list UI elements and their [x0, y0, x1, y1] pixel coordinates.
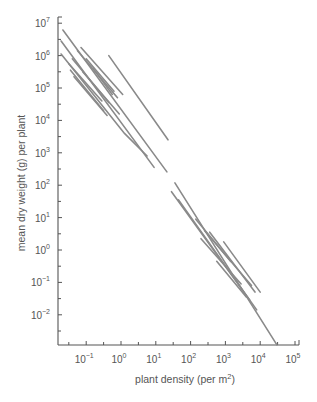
series-line-lower-3 — [178, 200, 256, 310]
y-tick-label: 103 — [35, 146, 50, 159]
y-tick-label: 106 — [35, 49, 50, 62]
series-line-upper-8 — [69, 64, 102, 101]
x-tick-label: 100 — [111, 352, 126, 365]
series-line-upper-12 — [86, 59, 114, 91]
x-tick-label: 105 — [285, 352, 300, 365]
data-lines — [61, 30, 277, 345]
series-line-lower-9 — [196, 219, 231, 261]
y-tick-label: 100 — [35, 243, 50, 256]
self-thinning-chart: 10710610510410310210110010−110−210−11001… — [0, 0, 317, 402]
x-axis-title: plant density (per m2) — [135, 372, 235, 385]
series-line-lower-1 — [175, 183, 277, 345]
x-tick-label: 101 — [146, 352, 161, 365]
y-tick-label: 105 — [35, 81, 50, 94]
y-tick-label: 107 — [35, 16, 50, 29]
x-tick-label: 103 — [216, 352, 231, 365]
y-tick-label: 10−1 — [31, 275, 50, 288]
axes — [58, 17, 299, 345]
series-line-lower-5 — [224, 242, 261, 292]
series-line-lower-7 — [201, 239, 241, 284]
x-tick-label: 10−1 — [75, 352, 94, 365]
x-tick-label: 102 — [181, 352, 196, 365]
y-tick-label: 104 — [35, 113, 50, 126]
y-tick-label: 10−2 — [31, 308, 50, 321]
y-axis-title: mean dry weight (g) per plant — [15, 115, 27, 252]
x-tick-label: 104 — [251, 352, 266, 365]
y-tick-label: 102 — [35, 178, 50, 191]
y-tick-label: 101 — [35, 211, 50, 224]
